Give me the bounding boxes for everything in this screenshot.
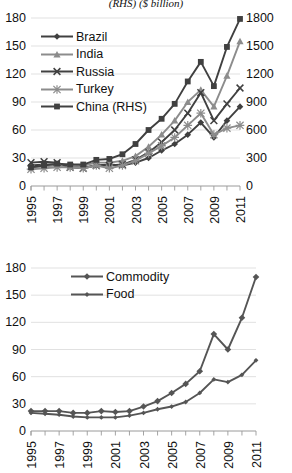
- chart1-title: (RHS) ($ billion): [0, 0, 292, 9]
- legend-item: China (RHS): [40, 98, 147, 116]
- chart-emerging-market-reserves: (RHS) ($ billion) 0306090120150180 03006…: [0, 0, 292, 248]
- axis-tick-label: 1997: [51, 196, 65, 224]
- chart2-legend: CommodityFood: [70, 268, 169, 303]
- axis-tick-label: 1200: [246, 68, 274, 80]
- axis-tick-label: 2001: [103, 196, 117, 224]
- axis-tick-label: 2009: [222, 441, 236, 469]
- axis-tick-label: 120: [5, 316, 26, 328]
- legend-label: Food: [106, 287, 135, 301]
- legend-label: China (RHS): [76, 100, 147, 114]
- axis-tick-label: 150: [5, 40, 26, 52]
- legend-item: Russia: [40, 63, 147, 81]
- axis-tick-label: 0: [19, 425, 26, 437]
- legend-item: India: [40, 46, 147, 64]
- axis-tick-label: 0: [19, 180, 26, 192]
- axis-tick-label: 1800: [246, 12, 274, 24]
- legend-label: Brazil: [76, 30, 107, 44]
- axis-tick-label: 30: [12, 398, 26, 410]
- axis-tick-label: 60: [12, 124, 26, 136]
- legend-label: India: [76, 47, 103, 61]
- chart2-x-axis: 199519971999200120032005200720092011: [31, 431, 256, 473]
- legend-marker-icon: [40, 84, 74, 95]
- axis-tick-label: 1997: [53, 441, 67, 469]
- axis-tick-label: 2005: [156, 196, 170, 224]
- axis-tick-label: 180: [5, 12, 26, 24]
- legend-item: Brazil: [40, 28, 147, 46]
- legend-marker-icon: [70, 289, 104, 300]
- legend-marker-icon: [40, 101, 74, 112]
- axis-tick-label: 1999: [77, 196, 91, 224]
- legend-label: Russia: [76, 65, 114, 79]
- axis-tick-label: 2009: [208, 196, 222, 224]
- chart1-x-axis: 199519971999200120032005200720092011: [31, 186, 240, 248]
- legend-item: Commodity: [70, 268, 169, 286]
- axis-tick-label: 90: [12, 344, 26, 356]
- legend-marker-icon: [40, 66, 74, 77]
- axis-tick-label: 2007: [194, 441, 208, 469]
- axis-tick-label: 180: [5, 262, 26, 274]
- axis-tick-label: 1995: [25, 441, 39, 469]
- axis-tick-label: 2011: [234, 196, 248, 223]
- chart1-legend: BrazilIndiaRussiaTurkeyChina (RHS): [40, 28, 147, 116]
- axis-tick-label: 2007: [182, 196, 196, 224]
- legend-item: Food: [70, 286, 169, 304]
- axis-tick-label: 90: [12, 96, 26, 108]
- axis-tick-label: 2011: [250, 441, 264, 468]
- chart-commodity-food-prices: 0306090120150180 19951997199920012003200…: [0, 248, 292, 461]
- legend-marker-icon: [70, 271, 104, 282]
- axis-tick-label: 2003: [130, 196, 144, 224]
- axis-tick-label: 0: [246, 180, 253, 192]
- axis-tick-label: 2001: [109, 441, 123, 469]
- axis-tick-label: 900: [246, 96, 267, 108]
- axis-tick-label: 150: [5, 289, 26, 301]
- legend-item: Turkey: [40, 81, 147, 99]
- axis-tick-label: 120: [5, 68, 26, 80]
- legend-marker-icon: [40, 49, 74, 60]
- axis-tick-label: 1500: [246, 40, 274, 52]
- legend-marker-icon: [40, 31, 74, 42]
- axis-tick-label: 30: [12, 152, 26, 164]
- axis-tick-label: 1999: [81, 441, 95, 469]
- axis-tick-label: 600: [246, 124, 267, 136]
- axis-tick-label: 1995: [25, 196, 39, 224]
- axis-tick-label: 60: [12, 371, 26, 383]
- legend-label: Turkey: [76, 82, 114, 96]
- axis-tick-label: 2003: [138, 441, 152, 469]
- legend-label: Commodity: [106, 270, 169, 284]
- axis-tick-label: 2005: [166, 441, 180, 469]
- axis-tick-label: 300: [246, 152, 267, 164]
